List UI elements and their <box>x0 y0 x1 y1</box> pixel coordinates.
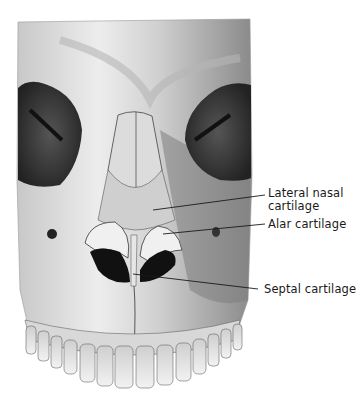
label-line: Alar cartilage <box>268 218 346 231</box>
label-alar-cartilage: Alar cartilage <box>268 218 346 231</box>
label-septal-cartilage: Septal cartilage <box>264 283 356 296</box>
septal-cartilage <box>131 235 137 286</box>
label-lateral-nasal-cartilage: Lateral nasal cartilage <box>268 187 344 213</box>
label-line: cartilage <box>268 200 344 213</box>
label-line: Septal cartilage <box>264 283 356 296</box>
